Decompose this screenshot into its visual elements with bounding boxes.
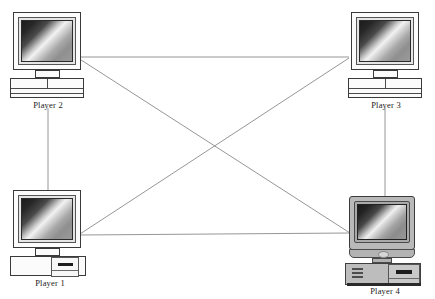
player1-screen — [21, 198, 73, 240]
player4-vent-1 — [352, 268, 363, 270]
player3-base-line-2 — [349, 93, 421, 94]
player2-screen — [21, 20, 73, 62]
link-player1-player4 — [80, 233, 350, 235]
player1-monitor-case — [13, 190, 81, 248]
network-diagram-canvas: Player 2 Player 3 Playe — [0, 0, 435, 299]
player3-monitor-bezel — [356, 17, 414, 65]
player4-power-indicator — [378, 251, 389, 258]
node-player4[interactable]: Player 4 — [345, 196, 425, 296]
player1-monitor-stand — [35, 248, 60, 256]
player3-screen — [359, 20, 411, 62]
player4-drive-slot — [396, 270, 412, 274]
player4-base-unit — [345, 263, 421, 285]
player4-label: Player 4 — [345, 286, 425, 296]
player4-monitor-case — [349, 196, 415, 250]
player3-label: Player 3 — [348, 100, 424, 110]
player2-base-line-2 — [11, 93, 83, 94]
player3-base-line-1 — [349, 88, 421, 89]
player3-monitor-case — [351, 12, 419, 70]
player1-monitor-bezel — [18, 195, 76, 243]
player2-monitor-stand — [35, 70, 60, 78]
player4-screen — [357, 204, 407, 240]
player4-bay-line — [389, 278, 419, 279]
player1-base-unit — [10, 256, 86, 276]
player3-monitor-stand — [373, 70, 398, 78]
node-player3[interactable]: Player 3 — [348, 12, 424, 108]
player2-base-line-1 — [11, 88, 83, 89]
player2-label: Player 2 — [10, 100, 86, 110]
player2-monitor-bezel — [18, 17, 76, 65]
player3-base-divider — [385, 79, 386, 88]
node-player1[interactable]: Player 1 — [10, 190, 90, 294]
player2-monitor-case — [13, 12, 81, 70]
player4-vent-2 — [352, 272, 363, 274]
player1-bay-line — [52, 270, 78, 271]
player1-drive-bay — [51, 257, 79, 277]
player4-monitor-chin — [349, 249, 415, 258]
player4-monitor-bezel — [354, 201, 410, 243]
player3-base-unit — [348, 78, 422, 98]
link-player3-player1 — [80, 58, 349, 234]
node-player2[interactable]: Player 2 — [10, 12, 86, 108]
player1-label: Player 1 — [10, 278, 90, 288]
player2-base-divider — [47, 79, 48, 88]
player4-vent-3 — [352, 276, 363, 278]
player2-base-unit — [10, 78, 84, 98]
player1-drive-slot — [58, 263, 73, 266]
